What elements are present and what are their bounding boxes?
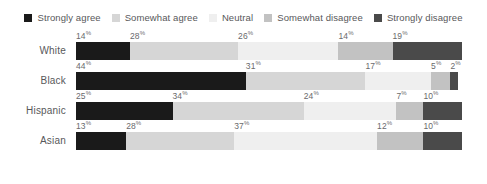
chart-row: Black44%31%17%5%2% (0, 60, 487, 90)
square-swatch-icon (24, 14, 32, 22)
percent-symbol: % (86, 120, 91, 126)
legend-item[interactable]: Neutral (209, 13, 253, 23)
segment-value-label: 25% (76, 90, 91, 102)
category-label: Hispanic (0, 102, 66, 120)
legend-item[interactable]: Somewhat disagree (264, 13, 363, 23)
legend-item[interactable]: Strongly disagree (374, 13, 463, 23)
square-swatch-icon (209, 14, 217, 22)
percent-symbol: % (433, 120, 438, 126)
bar-segment[interactable] (304, 102, 397, 120)
bar-segment[interactable] (126, 132, 234, 150)
segment-value-label: 31% (246, 60, 261, 72)
bar-segment[interactable] (393, 42, 463, 60)
value-label-layer: 14%28%26%14%19% (76, 30, 462, 42)
percent-symbol: % (248, 30, 253, 36)
segment-value-label: 2% (450, 60, 460, 72)
legend-item-label: Somewhat disagree (277, 13, 363, 23)
stacked-bar-chart: White14%28%26%14%19%Black44%31%17%5%2%Hi… (0, 30, 487, 184)
segment-value-label: 44% (76, 60, 91, 72)
segment-value-label: 10% (423, 90, 438, 102)
percent-symbol: % (140, 30, 145, 36)
segment-value-label: 28% (126, 120, 141, 132)
percent-symbol: % (401, 90, 406, 96)
bar-segment[interactable] (338, 42, 392, 60)
segment-value-label: 14% (76, 30, 91, 42)
segment-value-number: 34 (173, 91, 183, 101)
chart-row: White14%28%26%14%19% (0, 30, 487, 60)
segment-value-number: 24 (304, 91, 314, 101)
bar-segment[interactable] (173, 102, 304, 120)
percent-symbol: % (348, 30, 353, 36)
segment-value-number: 26 (238, 31, 248, 41)
percent-symbol: % (402, 30, 407, 36)
bar-segment[interactable] (423, 132, 462, 150)
percent-symbol: % (86, 60, 91, 66)
stacked-bar (76, 42, 462, 60)
segment-value-label: 10% (423, 120, 438, 132)
segment-value-label: 7% (396, 90, 406, 102)
stacked-bar (76, 102, 462, 120)
category-label: Asian (0, 132, 66, 150)
segment-value-number: 17 (366, 61, 376, 71)
value-label-layer: 25%34%24%7%10% (76, 90, 462, 102)
bar-segment[interactable] (76, 72, 246, 90)
bar-segment[interactable] (76, 132, 126, 150)
segment-value-number: 13 (76, 121, 86, 131)
percent-symbol: % (244, 120, 249, 126)
category-label: White (0, 42, 66, 60)
square-swatch-icon (374, 14, 382, 22)
stacked-bar (76, 132, 462, 150)
legend-item-label: Strongly agree (37, 13, 100, 23)
legend-item[interactable]: Somewhat agree (112, 13, 198, 23)
segment-value-label: 12% (377, 120, 392, 132)
bar-segment[interactable] (450, 72, 458, 90)
percent-symbol: % (387, 120, 392, 126)
percent-symbol: % (455, 60, 460, 66)
category-label: Black (0, 72, 66, 90)
bar-segment[interactable] (246, 72, 366, 90)
segment-value-label: 14% (338, 30, 353, 42)
chart-row: Asian13%28%37%12%10% (0, 120, 487, 150)
segment-value-number: 44 (76, 61, 86, 71)
bar-segment[interactable] (76, 102, 173, 120)
percent-symbol: % (313, 90, 318, 96)
bar-segment[interactable] (365, 72, 431, 90)
bar-segment[interactable] (396, 102, 423, 120)
stacked-bar (76, 72, 462, 90)
segment-value-label: 28% (130, 30, 145, 42)
segment-value-number: 14 (338, 31, 348, 41)
segment-value-label: 13% (76, 120, 91, 132)
segment-value-number: 25 (76, 91, 86, 101)
value-label-layer: 44%31%17%5%2% (76, 60, 462, 72)
percent-symbol: % (182, 90, 187, 96)
bar-segment[interactable] (76, 42, 130, 60)
percent-symbol: % (433, 90, 438, 96)
segment-value-number: 12 (377, 121, 387, 131)
percent-symbol: % (86, 90, 91, 96)
chart-row: Hispanic25%34%24%7%10% (0, 90, 487, 120)
segment-value-number: 10 (423, 91, 433, 101)
percent-symbol: % (136, 120, 141, 126)
segment-value-number: 10 (423, 121, 433, 131)
percent-symbol: % (86, 30, 91, 36)
segment-value-label: 37% (234, 120, 249, 132)
chart-legend: Strongly agreeSomewhat agreeNeutralSomew… (0, 0, 487, 30)
value-label-layer: 13%28%37%12%10% (76, 120, 462, 132)
bar-segment[interactable] (423, 102, 462, 120)
segment-value-number: 28 (126, 121, 136, 131)
percent-symbol: % (436, 60, 441, 66)
segment-value-label: 24% (304, 90, 319, 102)
segment-value-number: 28 (130, 31, 140, 41)
segment-value-label: 26% (238, 30, 253, 42)
bar-segment[interactable] (431, 72, 450, 90)
segment-value-number: 19 (393, 31, 403, 41)
bar-segment[interactable] (130, 42, 238, 60)
square-swatch-icon (112, 14, 120, 22)
segment-value-label: 19% (393, 30, 408, 42)
legend-item[interactable]: Strongly agree (24, 13, 100, 23)
square-swatch-icon (264, 14, 272, 22)
bar-segment[interactable] (238, 42, 338, 60)
percent-symbol: % (375, 60, 380, 66)
bar-segment[interactable] (377, 132, 423, 150)
bar-segment[interactable] (234, 132, 377, 150)
